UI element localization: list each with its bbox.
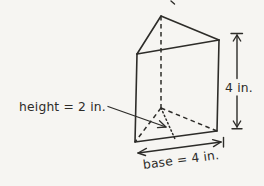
base-label: base = 4 in. [142,148,220,172]
prism-front-left-edge [135,54,137,142]
prism-top-left-edge [137,16,161,54]
prism-hidden-bottom-left-edge [135,108,161,142]
triangular-prism-figure: height = 2 in. 4 in. base = 4 in. [0,0,264,186]
prism-solid-edges [135,16,219,142]
prism-height-label: 4 in. [225,81,253,95]
triangle-height-label: height = 2 in. [19,100,106,114]
prism-top-front-edge [137,40,219,54]
prism-front-right-edge [217,40,219,131]
prism-top-right-edge [161,16,219,40]
height-label-arrow [108,107,166,128]
prism-bottom-front-edge [135,131,217,142]
stray-mark [171,1,175,4]
prism-drawing: height = 2 in. 4 in. base = 4 in. [0,0,264,186]
height-label-arrow-line [108,107,166,128]
